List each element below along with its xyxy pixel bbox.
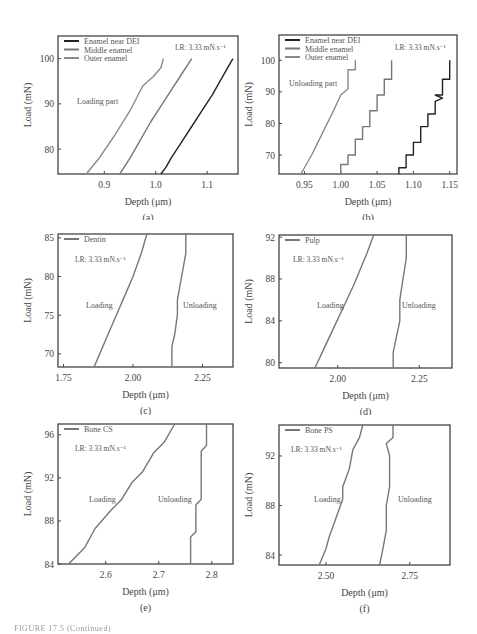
legend-entry: Bone CS <box>84 425 113 434</box>
panel-label: (f) <box>360 603 370 615</box>
y-tick-label: 84 <box>266 551 276 561</box>
legend-entry: Outer enamel <box>305 53 349 62</box>
y-tick-label: 70 <box>266 151 276 161</box>
x-tick-label: 2.00 <box>329 374 346 384</box>
x-tick-label: 1.75 <box>55 373 72 383</box>
x-tick-label: 0.9 <box>98 180 110 190</box>
chart-b: 0.951.001.051.101.15708090100Depth (μm)L… <box>237 0 477 220</box>
chart-c: 1.752.002.2570758085Depth (μm)Load (mN)(… <box>0 220 240 415</box>
curve-label: Loading <box>86 301 113 310</box>
chart-a: 0.91.01.18090100Depth (μm)Load (mN)(a)En… <box>0 0 240 220</box>
y-tick-label: 80 <box>266 358 276 368</box>
chart-panel-a: 0.91.01.18090100Depth (μm)Load (mN)(a)En… <box>0 0 240 220</box>
data-series-line <box>86 59 163 174</box>
panel-label: (b) <box>362 212 374 220</box>
legend-entry: Pulp <box>305 236 320 245</box>
x-tick-label: 2.25 <box>194 373 211 383</box>
y-tick-label: 80 <box>45 145 55 155</box>
loading-rate-annotation: LR: 3.33 mN.s⁻¹ <box>175 43 226 52</box>
x-tick-label: 1.00 <box>332 180 349 190</box>
x-axis-label: Depth (μm) <box>122 586 169 598</box>
x-tick-label: 2.75 <box>401 571 418 581</box>
loading-rate-annotation: LR: 3.33 mN.s⁻¹ <box>293 255 344 264</box>
y-tick-label: 92 <box>266 233 276 243</box>
legend-entry: Dentin <box>84 235 106 244</box>
chart-panel-e: 2.62.72.884889296Depth (μm)Load (mN)(e)B… <box>0 410 240 615</box>
x-tick-label: 2.00 <box>125 373 142 383</box>
curve-label: Unloading <box>183 301 217 310</box>
x-tick-label: 2.8 <box>206 570 218 580</box>
y-axis-label: Load (mN) <box>243 473 255 518</box>
panel-label: (e) <box>140 602 151 614</box>
chart-panel-c: 1.752.002.2570758085Depth (μm)Load (mN)(… <box>0 220 240 415</box>
x-axis-label: Depth (μm) <box>125 196 172 208</box>
y-tick-label: 92 <box>45 473 55 483</box>
y-tick-label: 85 <box>45 233 55 243</box>
x-tick-label: 2.6 <box>100 570 112 580</box>
chart-panel-b: 0.951.001.051.101.15708090100Depth (μm)L… <box>237 0 477 220</box>
chart-e: 2.62.72.884889296Depth (μm)Load (mN)(e)B… <box>0 410 240 615</box>
y-tick-label: 75 <box>45 311 55 321</box>
curve-label: Loading <box>317 301 344 310</box>
y-tick-label: 92 <box>266 451 276 461</box>
x-tick-label: 1.0 <box>150 180 162 190</box>
y-tick-label: 88 <box>266 274 276 284</box>
loading-rate-annotation: LR: 3.33 mN.s⁻¹ <box>75 255 126 264</box>
y-tick-label: 90 <box>266 87 276 97</box>
data-series-line <box>380 425 393 565</box>
x-axis-label: Depth (μm) <box>341 587 388 599</box>
y-tick-label: 84 <box>266 316 276 326</box>
y-axis-label: Load (mN) <box>22 83 34 128</box>
panel-label: (a) <box>142 212 153 220</box>
loading-rate-annotation: LR: 3.33 mN.s⁻¹ <box>291 445 342 454</box>
curve-label: Loading <box>89 495 116 504</box>
y-tick-label: 100 <box>261 56 276 66</box>
data-series-line <box>399 60 450 174</box>
y-axis-label: Load (mN) <box>22 472 34 517</box>
y-tick-label: 88 <box>45 516 55 526</box>
chart-f: 2.502.75848892Depth (μm)Load (mN)(f)Bone… <box>237 410 477 615</box>
curve-label: Loading part <box>77 97 119 106</box>
loading-rate-annotation: LR: 3.33 mN.s⁻¹ <box>75 444 126 453</box>
y-tick-label: 84 <box>45 560 55 570</box>
y-tick-label: 90 <box>45 99 55 109</box>
data-series-line <box>161 59 233 174</box>
y-axis-label: Load (mN) <box>243 279 255 324</box>
y-tick-label: 100 <box>40 54 55 64</box>
y-tick-label: 70 <box>45 349 55 359</box>
curve-label: Unloading <box>158 495 192 504</box>
loading-rate-annotation: LR: 3.33 mN.s⁻¹ <box>395 43 446 52</box>
curve-label: Unloading part <box>289 79 338 88</box>
y-axis-label: Load (mN) <box>243 82 255 127</box>
x-tick-label: 1.10 <box>405 180 422 190</box>
curve-label: Loading <box>314 495 341 504</box>
legend-entry: Bone PS <box>305 426 333 435</box>
chart-d: 2.002.2580848892Depth (μm)Load (mN)(d)Pu… <box>237 220 477 415</box>
curve-label: Unloading <box>402 301 436 310</box>
x-tick-label: 1.1 <box>201 180 213 190</box>
curve-label: Unloading <box>398 495 432 504</box>
data-series-line <box>191 424 207 564</box>
x-axis-label: Depth (μm) <box>342 390 389 402</box>
chart-panel-f: 2.502.75848892Depth (μm)Load (mN)(f)Bone… <box>237 410 477 615</box>
x-tick-label: 0.95 <box>296 180 313 190</box>
x-axis-label: Depth (μm) <box>122 389 169 401</box>
figure-caption: FIGURE 17.5 (Continued) <box>14 624 111 634</box>
legend-entry: Outer enamel <box>84 54 128 63</box>
y-axis-label: Load (mN) <box>22 278 34 323</box>
y-tick-label: 80 <box>45 272 55 282</box>
y-tick-label: 88 <box>266 501 276 511</box>
chart-panel-d: 2.002.2580848892Depth (μm)Load (mN)(d)Pu… <box>237 220 477 415</box>
data-series-line <box>120 59 192 174</box>
x-axis-label: Depth (μm) <box>345 196 392 208</box>
data-series-line <box>301 60 356 174</box>
y-tick-label: 80 <box>266 119 276 129</box>
x-tick-label: 2.50 <box>318 571 335 581</box>
x-tick-label: 2.25 <box>411 374 428 384</box>
y-tick-label: 96 <box>45 430 55 440</box>
x-tick-label: 2.7 <box>153 570 165 580</box>
x-tick-label: 1.15 <box>441 180 458 190</box>
x-tick-label: 1.05 <box>369 180 386 190</box>
